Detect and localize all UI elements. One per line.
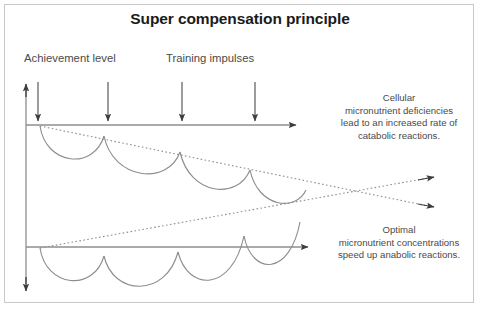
figure-root: Super compensation principle Achievement… [0,0,480,309]
catabolic-trend-line [40,126,428,206]
catabolic-curve-4 [250,170,306,203]
catabolic-curve-1 [40,126,104,159]
anabolic-curve-4 [244,222,300,264]
anabolic-curve-3 [178,236,244,280]
anabolic-scallops [40,222,300,286]
anabolic-curve-2 [104,252,178,286]
anabolic-trend-arrow [418,177,434,180]
catabolic-scallops [40,126,306,203]
diagram-canvas [0,0,480,309]
anabolic-curve-1 [40,248,104,281]
anabolic-trend-line [40,178,428,248]
catabolic-curve-3 [180,152,250,189]
catabolic-trend-arrow [418,204,434,207]
training-impulse-arrows [38,82,255,121]
axis-group [26,84,308,291]
